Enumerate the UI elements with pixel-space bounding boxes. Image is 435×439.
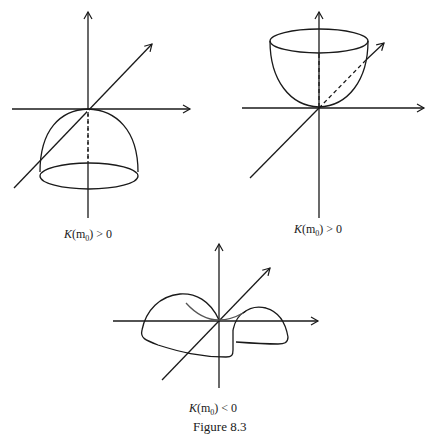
y-axis-diagonal-hidden (319, 60, 366, 108)
label-rest: ) > 0 (319, 222, 342, 236)
label-saddle: K(m0) < 0 (189, 401, 237, 417)
figure-caption: Figure 8.3 (193, 419, 246, 435)
label-bowl: K(m0) > 0 (294, 222, 342, 238)
label-k: K (64, 227, 72, 241)
y-axis-diagonal (14, 44, 152, 188)
y-axis-diagonal-solid (250, 108, 319, 178)
label-k: K (294, 222, 302, 236)
label-rest: ) < 0 (214, 401, 237, 415)
label-arg: (m (72, 227, 85, 241)
label-dome: K(m0) > 0 (64, 227, 112, 243)
panel-bowl (242, 12, 424, 218)
panel-saddle (113, 244, 318, 388)
label-k: K (189, 401, 197, 415)
saddle-right-lobe (236, 307, 288, 344)
panel-dome (12, 12, 190, 218)
figure-canvas (0, 0, 435, 439)
label-rest: ) > 0 (89, 227, 112, 241)
y-axis-diagonal (162, 268, 270, 380)
label-arg: (m (302, 222, 315, 236)
dome-base (40, 163, 138, 189)
label-arg: (m (197, 401, 210, 415)
